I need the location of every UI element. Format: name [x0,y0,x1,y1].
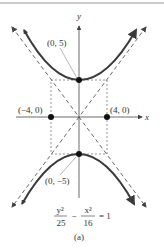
eq-num2: x² [84,205,92,215]
label-0-5: (0, 5) [47,38,67,48]
hyperbola-figure: y x (0, 5) (0, −5) (−4, 0) (4, 0) y² 25 … [0,0,164,249]
eq-num1: y² [56,205,64,215]
eq-rhs: = 1 [99,211,111,221]
lower-branch [22,154,134,204]
eq-den2: 16 [84,218,94,228]
label-0-neg5: (0, −5) [45,176,70,186]
label-4-0: (4, 0) [110,105,130,115]
point-neg4 [48,114,54,120]
upper-branch [24,30,136,80]
eq-den1: 25 [57,218,67,228]
vertex-bottom [76,151,82,157]
eq-minus: − [71,211,76,221]
x-axis-label: x [144,112,149,122]
vertex-top [76,77,82,83]
y-axis-label: y [76,11,81,21]
figure-caption: (a) [74,232,84,242]
label-neg4-0: (−4, 0) [18,105,43,115]
